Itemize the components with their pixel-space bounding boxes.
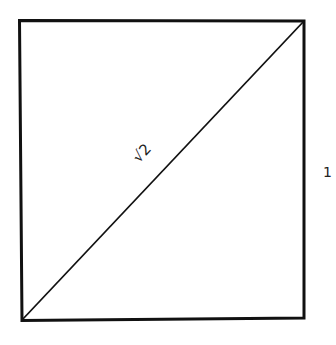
square-diagram: √2 1 bbox=[0, 0, 336, 345]
diagonal-line bbox=[22, 21, 304, 320]
side-label: 1 bbox=[323, 164, 332, 180]
diagonal-label: √2 bbox=[129, 140, 155, 166]
